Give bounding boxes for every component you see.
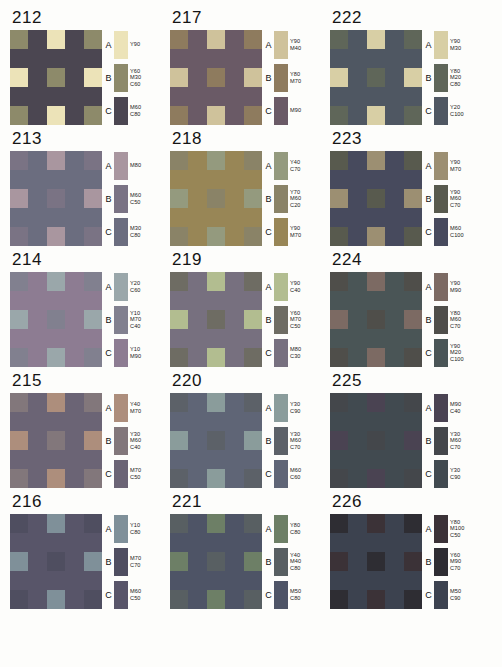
- ink-value: C80: [130, 529, 164, 535]
- chart-body: AY10C80BM70C70CM60C50: [10, 514, 164, 609]
- color-patch: [404, 552, 422, 571]
- legend-swatch: [114, 515, 128, 543]
- color-patch: [10, 68, 28, 87]
- legend-ink-values: Y20C60: [130, 280, 164, 293]
- color-patch: [367, 272, 385, 291]
- ink-value: M30: [450, 45, 484, 51]
- color-patch: [188, 348, 206, 367]
- color-patch: [330, 151, 348, 170]
- color-patch: [404, 87, 422, 106]
- legend-letter: B: [103, 194, 114, 204]
- legend-letter: A: [423, 403, 434, 413]
- color-patch: [188, 208, 206, 227]
- patch-grid: [330, 30, 422, 125]
- color-patch: [348, 30, 366, 49]
- chart-cell-223: 223AY90M70BY90M60C70CM60C100: [330, 129, 484, 246]
- color-patch: [28, 469, 46, 488]
- color-patch: [348, 272, 366, 291]
- color-patch: [28, 450, 46, 469]
- ink-value: C80: [290, 529, 324, 535]
- color-patch: [404, 49, 422, 68]
- legend-swatch: [274, 64, 288, 92]
- color-patch: [207, 393, 225, 412]
- color-patch: [244, 106, 262, 125]
- color-patch: [65, 590, 83, 609]
- color-patch: [188, 189, 206, 208]
- color-patch: [47, 106, 65, 125]
- color-patch: [367, 208, 385, 227]
- ink-value: C50: [290, 323, 324, 329]
- legend-swatch: [114, 460, 128, 488]
- color-patch: [244, 533, 262, 552]
- color-patch: [330, 170, 348, 189]
- legend-ink-values: Y80C80: [290, 522, 324, 535]
- color-patch: [28, 208, 46, 227]
- color-patch: [207, 552, 225, 571]
- legend-row: AY40C70: [263, 151, 324, 180]
- color-patch: [65, 431, 83, 450]
- color-patch: [404, 272, 422, 291]
- color-patch: [348, 552, 366, 571]
- color-patch: [385, 291, 403, 310]
- color-patch: [84, 450, 102, 469]
- legend-swatch: [434, 273, 448, 301]
- color-patch: [404, 310, 422, 329]
- ink-value: C30: [290, 353, 324, 359]
- legend-row: AY80M100C50: [423, 514, 484, 543]
- color-patch: [47, 87, 65, 106]
- color-patch: [330, 329, 348, 348]
- color-patch: [10, 272, 28, 291]
- color-patch: [348, 348, 366, 367]
- color-patch: [84, 189, 102, 208]
- legend-swatch: [114, 64, 128, 92]
- chart-body: AY90C40BY60M70C50CM80C30: [170, 272, 324, 367]
- legend-letter: C: [263, 348, 274, 358]
- chart-number: 224: [332, 250, 484, 270]
- color-patch: [188, 106, 206, 125]
- color-patch: [348, 571, 366, 590]
- color-patch: [188, 412, 206, 431]
- legend-swatch: [434, 394, 448, 422]
- ink-value: C100: [450, 111, 484, 117]
- legend-row: CM60C50: [103, 580, 164, 609]
- color-patch: [244, 272, 262, 291]
- chart-row: 215AY40M70BY30M60C40CM70C50220AY30C90BY3…: [10, 371, 498, 488]
- color-patch: [170, 552, 188, 571]
- chart-body: AY90M70BY90M60C70CM60C100: [330, 151, 484, 246]
- ink-value: C70: [450, 565, 484, 571]
- legend-row: BM60C50: [103, 184, 164, 213]
- color-patch: [207, 49, 225, 68]
- color-patch: [84, 552, 102, 571]
- color-patch: [244, 469, 262, 488]
- color-patch: [207, 208, 225, 227]
- color-patch: [170, 533, 188, 552]
- color-patch: [225, 514, 243, 533]
- color-patch: [10, 469, 28, 488]
- legend: AY20C60BY10M70C40CY10M90: [103, 272, 164, 367]
- color-patch: [28, 590, 46, 609]
- ink-value: C50: [130, 474, 164, 480]
- legend-ink-values: Y10C80: [130, 522, 164, 535]
- legend-ink-values: Y90M70: [290, 225, 324, 238]
- color-patch: [207, 533, 225, 552]
- legend-row: BY30M60C70: [423, 426, 484, 455]
- color-patch: [348, 590, 366, 609]
- legend-swatch: [114, 394, 128, 422]
- legend: AY90BY60M30C60CM60C80: [103, 30, 164, 125]
- color-patch: [188, 151, 206, 170]
- ink-value: M90: [130, 353, 164, 359]
- color-patch: [348, 412, 366, 431]
- color-patch: [348, 170, 366, 189]
- color-patch: [10, 170, 28, 189]
- chart-number: 226: [332, 492, 484, 512]
- legend-letter: C: [423, 227, 434, 237]
- color-patch: [84, 514, 102, 533]
- legend-ink-values: Y30M60C70: [290, 431, 324, 450]
- color-patch: [244, 348, 262, 367]
- ink-value: C60: [290, 474, 324, 480]
- ink-value: M80: [130, 162, 164, 168]
- color-patch: [10, 30, 28, 49]
- color-patch: [348, 49, 366, 68]
- color-patch: [65, 393, 83, 412]
- legend-swatch: [274, 339, 288, 367]
